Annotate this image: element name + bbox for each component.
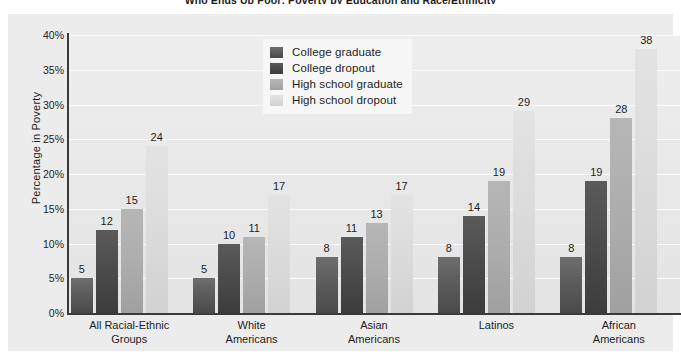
y-axis-tick-labels: 40%35%30%25%20%15%10%5%0% <box>24 35 64 313</box>
y-axis-tick-label: 40% <box>30 29 64 41</box>
legend-label: College graduate <box>292 46 381 58</box>
bar-value-label: 12 <box>101 215 113 227</box>
legend-item[interactable]: High school graduate <box>270 76 403 92</box>
y-axis-tick-label: 20% <box>30 168 64 180</box>
bar-value-label: 38 <box>640 34 652 46</box>
legend-swatch-icon <box>270 47 283 58</box>
bar-value-label: 11 <box>346 222 357 234</box>
x-axis-category-label: WhiteAmericans <box>190 318 312 346</box>
bar[interactable]: 38 <box>635 49 657 313</box>
bar[interactable]: 11 <box>341 237 363 313</box>
bar[interactable]: 11 <box>243 237 265 313</box>
bar-value-label: 17 <box>273 180 285 192</box>
bar[interactable]: 29 <box>513 111 535 313</box>
bar[interactable]: 15 <box>121 209 143 313</box>
chart-legend: College graduateCollege dropoutHigh scho… <box>263 39 412 114</box>
y-axis-tick-label: 5% <box>30 272 64 284</box>
bar-value-label: 8 <box>323 242 329 254</box>
chart-title: Who Ends Up Poor: Poverty by Education a… <box>0 0 681 4</box>
legend-item[interactable]: High school dropout <box>270 92 403 108</box>
bar[interactable]: 5 <box>193 278 215 313</box>
bar-group: 8141929 <box>438 35 535 313</box>
bar-value-label: 8 <box>446 242 452 254</box>
y-axis-line <box>67 33 69 315</box>
y-axis-tick-label: 0% <box>30 307 64 319</box>
bar[interactable]: 19 <box>488 181 510 313</box>
x-axis-category-label-line: Latinos <box>435 318 557 332</box>
bar-value-label: 11 <box>248 222 259 234</box>
bar-value-label: 17 <box>395 180 407 192</box>
x-axis-category-label: AfricanAmericans <box>558 318 680 346</box>
x-axis-category-label-line: White <box>190 318 312 332</box>
bar[interactable]: 10 <box>218 244 240 314</box>
x-axis-category-label-line: Americans <box>558 332 680 346</box>
bar-slot: 15 <box>121 35 143 313</box>
bar-value-label: 5 <box>201 263 207 275</box>
bar[interactable]: 8 <box>560 257 582 313</box>
x-axis-category-label-line: Groups <box>68 332 190 346</box>
bar-value-label: 10 <box>223 229 235 241</box>
bar[interactable]: 17 <box>268 195 290 313</box>
bar-value-label: 29 <box>518 96 530 108</box>
bar-value-label: 24 <box>151 131 163 143</box>
bar[interactable]: 8 <box>316 257 338 313</box>
bar-slot: 8 <box>560 35 582 313</box>
x-axis-category-label: All Racial-EthnicGroups <box>68 318 190 346</box>
y-axis-tick-label: 10% <box>30 238 64 250</box>
x-axis-category-label-line: Asian <box>313 318 435 332</box>
x-axis-category-label: Latinos <box>435 318 557 332</box>
x-axis-line <box>67 313 681 315</box>
bar[interactable]: 28 <box>610 118 632 313</box>
bar[interactable]: 14 <box>463 216 485 313</box>
bar-slot: 14 <box>463 35 485 313</box>
bar-value-label: 15 <box>126 194 138 206</box>
bar-slot: 5 <box>71 35 93 313</box>
legend-swatch-icon <box>270 79 283 90</box>
x-axis-category-label-line: All Racial-Ethnic <box>68 318 190 332</box>
chart-panel: Percentage in Poverty 512152451011178111… <box>8 14 673 351</box>
bar-value-label: 8 <box>568 242 574 254</box>
bar-value-label: 5 <box>79 263 85 275</box>
bar-slot: 28 <box>610 35 632 313</box>
x-axis-category-label-line: African <box>558 318 680 332</box>
legend-item[interactable]: College graduate <box>270 44 403 60</box>
bar[interactable]: 8 <box>438 257 460 313</box>
bar-slot: 12 <box>96 35 118 313</box>
chart-figure: Who Ends Up Poor: Poverty by Education a… <box>0 0 681 355</box>
bar[interactable]: 17 <box>391 195 413 313</box>
y-axis-tick-label: 15% <box>30 203 64 215</box>
bar-slot: 38 <box>635 35 657 313</box>
bar-slot: 10 <box>218 35 240 313</box>
bar-value-label: 19 <box>493 166 505 178</box>
bar-slot: 24 <box>146 35 168 313</box>
bar-slot: 5 <box>193 35 215 313</box>
bar-slot: 29 <box>513 35 535 313</box>
legend-label: College dropout <box>292 62 375 74</box>
bar-value-label: 19 <box>590 166 602 178</box>
bar-slot: 19 <box>488 35 510 313</box>
bar-value-label: 28 <box>615 103 627 115</box>
bar-slot: 8 <box>438 35 460 313</box>
bar[interactable]: 24 <box>146 146 168 313</box>
bar[interactable]: 19 <box>585 181 607 313</box>
y-axis-tick-label: 25% <box>30 133 64 145</box>
legend-swatch-icon <box>270 63 283 74</box>
bar-slot: 19 <box>585 35 607 313</box>
bar[interactable]: 13 <box>366 223 388 313</box>
bar-value-label: 13 <box>370 208 382 220</box>
bar-group: 5121524 <box>71 35 168 313</box>
bar[interactable]: 12 <box>96 230 118 313</box>
bar-slot: 11 <box>243 35 265 313</box>
bar-value-label: 14 <box>468 201 480 213</box>
legend-label: High school dropout <box>292 94 396 106</box>
legend-item[interactable]: College dropout <box>270 60 403 76</box>
bar-group: 8192838 <box>560 35 657 313</box>
x-axis-category-labels: All Racial-EthnicGroupsWhiteAmericansAsi… <box>68 318 680 355</box>
legend-swatch-icon <box>270 95 283 106</box>
x-axis-category-label: AsianAmericans <box>313 318 435 346</box>
bar[interactable]: 5 <box>71 278 93 313</box>
y-axis-tick-label: 35% <box>30 64 64 76</box>
legend-label: High school graduate <box>292 78 403 90</box>
x-axis-category-label-line: Americans <box>313 332 435 346</box>
y-axis-tick-label: 30% <box>30 99 64 111</box>
